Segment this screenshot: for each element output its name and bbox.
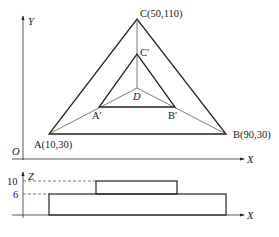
z-tick-6: 6: [13, 189, 18, 200]
point-a-prime-label: A′: [92, 110, 102, 121]
top-block: [96, 181, 177, 194]
z-tick-10: 10: [7, 176, 18, 187]
point-b-label: B(90,30): [233, 129, 271, 141]
x-axis-label-top: X: [246, 154, 254, 165]
point-a-label: A(10,30): [34, 139, 73, 151]
point-c-label: C(50,110): [140, 8, 183, 20]
origin-label: O: [12, 146, 20, 157]
outer-triangle-abc: [49, 19, 226, 134]
z-axis-label: Z: [28, 171, 34, 182]
side-view-axes: [12, 172, 244, 218]
x-axis-label-side: X: [246, 210, 254, 221]
point-c-prime-label: C′: [140, 47, 149, 58]
edges-to-d: [49, 19, 226, 134]
y-axis-label: Y: [28, 16, 35, 27]
base-block: [49, 194, 226, 215]
point-b-prime-label: B′: [168, 110, 177, 121]
truncated-pyramid-projection-diagram: Y X O C(50,110) C′ D A′ B′ A(10,30) B(90…: [0, 0, 279, 237]
point-d-label: D: [132, 91, 141, 102]
